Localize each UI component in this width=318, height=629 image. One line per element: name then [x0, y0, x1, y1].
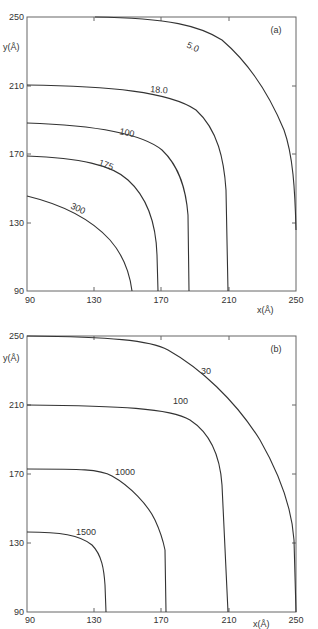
panel-a-xtick-210: 210 [221, 295, 236, 305]
contour-label-b-1000: 1000 [115, 467, 135, 477]
panel-b-tag: (b) [271, 344, 282, 354]
contour-label-a-18.0: 18.0 [150, 84, 168, 95]
contour-label-a-5.0: 5.0 [185, 40, 201, 54]
panel-a-frame [27, 17, 296, 291]
contour-label-b-30: 30 [201, 366, 211, 376]
contour-a-175 [27, 156, 158, 291]
panel-b-ticks [27, 336, 296, 612]
contour-b-1500 [27, 532, 106, 612]
panel-b-xtick-250: 250 [288, 615, 303, 625]
panel-b-ytick-170: 170 [9, 469, 24, 479]
panel-a-xtick-170: 170 [153, 295, 168, 305]
contour-b-30 [27, 336, 296, 612]
contour-label-b-100: 100 [173, 396, 188, 406]
contour-a-18.0 [27, 85, 228, 291]
contour-label-b-1500: 1500 [76, 527, 96, 537]
contour-label-a-100: 100 [119, 126, 136, 139]
panel-b-ytick-90: 90 [14, 607, 24, 617]
contour-label-a-175: 175 [97, 157, 115, 172]
panel-a-xtick-130: 130 [86, 295, 101, 305]
panel-a-ytick-90: 90 [14, 286, 24, 296]
panel-a-xtick-90: 90 [25, 295, 35, 305]
panel-b-ytick-130: 130 [9, 538, 24, 548]
panel-a: 250 210 170 130 90 90 130 170 210 250 y(… [3, 12, 304, 315]
panel-a-xlabel: x(Å) [257, 305, 274, 315]
panel-b-ytick-250: 250 [9, 331, 24, 341]
panel-a-ticks [27, 17, 296, 291]
panel-b-xtick-90: 90 [25, 615, 35, 625]
panel-a-ytick-250: 250 [9, 12, 24, 22]
contour-label-a-300: 300 [69, 201, 87, 216]
panel-a-ylabel: y(Å) [3, 42, 20, 52]
panel-a-ytick-130: 130 [9, 218, 24, 228]
panel-b-xtick-170: 170 [153, 615, 168, 625]
panel-b-xtick-210: 210 [221, 615, 236, 625]
panel-a-xtick-250: 250 [288, 295, 303, 305]
panel-b-ytick-210: 210 [9, 400, 24, 410]
panel-a-tag: (a) [271, 25, 282, 35]
panel-b: 250 210 170 130 90 90 130 170 210 250 y(… [3, 331, 304, 629]
panel-b-frame [27, 336, 296, 612]
panel-b-xtick-130: 130 [86, 615, 101, 625]
panel-a-ytick-210: 210 [9, 81, 24, 91]
contour-b-1000 [27, 469, 166, 612]
panel-a-ytick-170: 170 [9, 149, 24, 159]
contour-b-100 [27, 405, 228, 612]
panel-b-ylabel: y(Å) [3, 353, 20, 363]
contour-a-100 [27, 123, 189, 291]
panel-b-xlabel: x(Å) [253, 619, 270, 629]
figure: 250 210 170 130 90 90 130 170 210 250 y(… [0, 0, 318, 629]
